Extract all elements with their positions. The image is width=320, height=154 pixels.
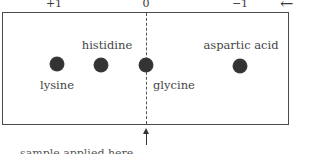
label-glycine: glycine [153, 79, 195, 91]
direction-arrow-icon: ← [280, 0, 293, 12]
label-aspartic-acid: aspartic acid [203, 39, 278, 51]
charge-label-minus1: −1 [232, 0, 248, 9]
charge-label-plus1: +1 [46, 0, 62, 9]
label-histidine: histidine [82, 39, 133, 51]
origin-arrow-icon [143, 128, 149, 134]
spot-lysine [50, 57, 65, 72]
spot-aspartic-acid [233, 59, 248, 74]
spot-glycine [139, 58, 154, 73]
spot-histidine [94, 58, 109, 73]
charge-label-zero: 0 [143, 0, 150, 9]
label-lysine: lysine [40, 79, 74, 91]
caption-cutoff: sample applied here [20, 147, 133, 154]
